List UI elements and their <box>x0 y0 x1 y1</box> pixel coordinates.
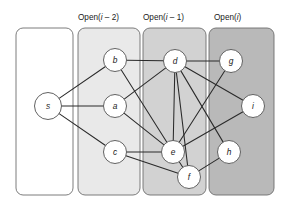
node-c[interactable]: c <box>104 141 127 164</box>
node-label-b: b <box>113 55 118 65</box>
node-d[interactable]: d <box>164 50 187 73</box>
node-label-d: d <box>173 56 178 66</box>
node-f[interactable]: f <box>178 166 201 189</box>
panel-label-panel-open-i-minus-2: Open(i – 2) <box>78 13 119 22</box>
node-label-g: g <box>229 56 234 66</box>
graph-figure: Open(i – 2)Open(i – 1)Open(i)sbacdefgih <box>0 0 288 207</box>
graph-canvas: Open(i – 2)Open(i – 1)Open(i)sbacdefgih <box>0 0 288 207</box>
panel-panel-open-i <box>209 28 274 195</box>
node-a[interactable]: a <box>104 95 127 118</box>
node-b[interactable]: b <box>104 49 127 72</box>
node-label-a: a <box>113 101 118 111</box>
node-i[interactable]: i <box>242 95 265 118</box>
node-e[interactable]: e <box>162 141 185 164</box>
node-label-e: e <box>171 147 176 157</box>
node-g[interactable]: g <box>220 50 243 73</box>
panel-label-panel-open-i-minus-1: Open(i – 1) <box>143 13 184 22</box>
panel-label-panel-open-i: Open(i) <box>214 13 242 22</box>
node-h[interactable]: h <box>218 141 241 164</box>
node-s[interactable]: s <box>35 93 62 120</box>
node-label-h: h <box>227 147 232 157</box>
edge-b-d <box>126 60 163 61</box>
panel-labels-layer: Open(i – 2)Open(i – 1)Open(i) <box>78 13 242 22</box>
